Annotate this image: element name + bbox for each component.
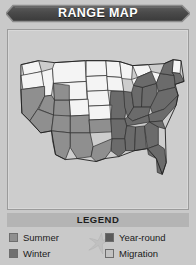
legend-item-year-round[interactable]: Year-round xyxy=(105,229,189,245)
legend-label-summer: Summer xyxy=(23,232,59,243)
state-shape xyxy=(106,61,122,78)
us-range-map-graphic xyxy=(8,30,188,209)
legend-swatch-summer xyxy=(9,233,18,242)
state-shape xyxy=(88,105,111,120)
state-shape xyxy=(69,99,89,116)
state-shape-summer xyxy=(89,119,112,133)
state-shape xyxy=(53,61,87,84)
legend-item-winter[interactable]: Winter xyxy=(9,245,93,261)
legend-item-summer[interactable]: Summer xyxy=(9,229,93,245)
legend-label-year-round: Year-round xyxy=(119,232,166,243)
state-shape xyxy=(87,90,110,106)
state-shape-summer xyxy=(52,115,71,133)
state-shape-summer xyxy=(53,83,69,100)
map-panel[interactable] xyxy=(7,29,189,210)
state-shape-summer xyxy=(53,100,70,117)
page-title: RANGE MAP xyxy=(6,4,190,23)
state-shape xyxy=(120,62,133,80)
state-shape-year-round xyxy=(111,119,127,139)
legend-swatch-winter xyxy=(9,249,18,258)
legend-column-left: Summer Winter xyxy=(9,229,93,261)
state-shape-summer xyxy=(70,115,90,133)
legend-swatch-year-round xyxy=(105,233,114,242)
state-shape-year-round xyxy=(111,139,126,157)
legend-swatch-migration xyxy=(105,249,114,258)
range-map-widget: RANGE MAP xyxy=(0,0,196,265)
legend: Summer Winter Year-round Migration xyxy=(7,229,189,261)
state-shape-year-round xyxy=(132,85,143,107)
legend-item-migration[interactable]: Migration xyxy=(105,245,189,261)
state-shape xyxy=(86,75,108,91)
legend-label-winter: Winter xyxy=(23,248,50,259)
legend-title: LEGEND xyxy=(7,213,189,227)
state-shape-year-round xyxy=(125,126,136,151)
state-shape xyxy=(172,60,181,74)
range-map-banner: RANGE MAP xyxy=(6,4,190,23)
legend-column-right: Year-round Migration xyxy=(105,229,189,261)
legend-label-migration: Migration xyxy=(119,248,158,259)
state-shape xyxy=(86,61,107,77)
state-shape-summer xyxy=(70,133,93,159)
state-shape xyxy=(107,76,124,91)
